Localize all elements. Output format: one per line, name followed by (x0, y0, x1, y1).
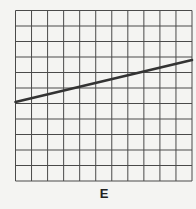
figure-label: E (0, 186, 196, 201)
data-line (16, 60, 193, 102)
grid-figure (0, 0, 196, 209)
